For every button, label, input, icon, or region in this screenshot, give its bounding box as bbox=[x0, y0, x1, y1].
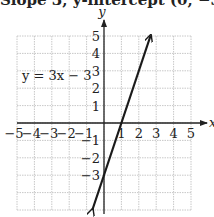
svg-text:−3: −3 bbox=[39, 126, 58, 141]
svg-text:−2: −2 bbox=[81, 151, 100, 166]
svg-text:4: 4 bbox=[169, 126, 177, 141]
svg-text:5: 5 bbox=[187, 126, 195, 141]
svg-text:4: 4 bbox=[92, 46, 100, 61]
svg-text:x: x bbox=[209, 115, 214, 130]
svg-text:3: 3 bbox=[152, 126, 160, 141]
svg-text:−2: −2 bbox=[57, 126, 76, 141]
svg-text:1: 1 bbox=[92, 99, 100, 114]
svg-text:−4: −4 bbox=[22, 126, 41, 141]
svg-text:2: 2 bbox=[92, 81, 100, 96]
svg-text:−5: −5 bbox=[4, 126, 23, 141]
svg-text:−1: −1 bbox=[81, 133, 100, 148]
svg-text:−3: −3 bbox=[81, 168, 100, 183]
svg-text:2: 2 bbox=[135, 126, 143, 141]
svg-text:3: 3 bbox=[92, 64, 100, 79]
svg-text:5: 5 bbox=[92, 29, 100, 44]
equation-label: y = 3x − 3 bbox=[21, 68, 92, 83]
svg-text:y: y bbox=[97, 4, 106, 19]
line-graph: xy −5−4−3−2−11234554321−1−2−3 y = 3x − 3 bbox=[0, 0, 214, 217]
